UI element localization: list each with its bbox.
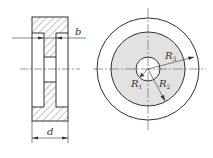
d-label: d — [47, 126, 53, 137]
lower-web-hatch — [44, 82, 56, 107]
upper-web-hatch — [44, 33, 56, 57]
diagram-canvas: b d R1 R2 R3 — [0, 0, 213, 158]
b-label: b — [75, 26, 81, 37]
section-view: b d — [12, 17, 86, 143]
bottom-flange-hatch — [32, 107, 68, 121]
top-flange-hatch — [32, 17, 68, 33]
front-view: R1 R2 R3 — [93, 8, 206, 132]
